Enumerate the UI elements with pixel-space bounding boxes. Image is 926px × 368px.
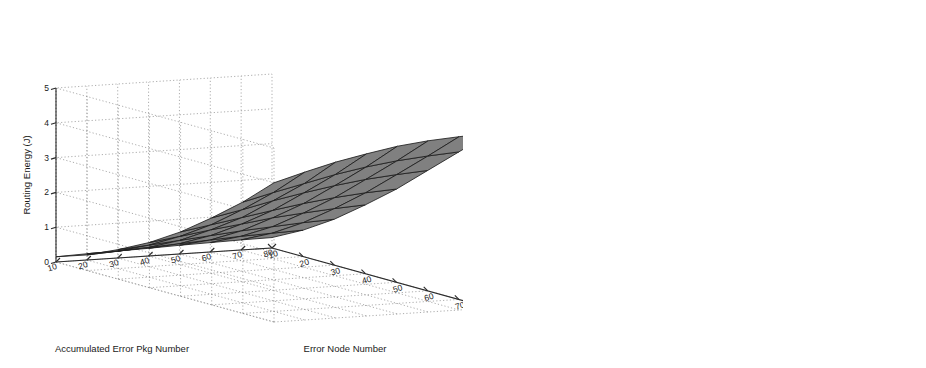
surface-mesh	[56, 133, 463, 256]
z-tick-label: 2	[44, 187, 49, 197]
z-tick-label: 4	[44, 118, 49, 128]
y-tick-label: 60	[200, 251, 212, 263]
surface-plot-left: 01234510203040506070801020304050607080Ro…	[0, 0, 463, 368]
z-tick-label: 1	[44, 222, 49, 232]
surface-plot-right: 1020304050601020304050607080102030405060…	[463, 0, 926, 368]
chart-panel-left: 01234510203040506070801020304050607080Ro…	[0, 0, 463, 368]
grid-line-floor-x	[274, 308, 463, 322]
x-axis-title: Error Node Number	[304, 343, 387, 354]
z-tick-label: 3	[44, 153, 49, 163]
z-tick-mark	[51, 158, 56, 160]
figure-container: 01234510203040506070801020304050607080Ro…	[0, 0, 926, 368]
z-tick-mark	[51, 88, 56, 90]
chart-panel-right: 1020304050601020304050607080102030405060…	[463, 0, 926, 368]
z-tick-mark	[51, 192, 56, 194]
y-tick-label: 50	[170, 253, 182, 265]
y-tick-label: 30	[108, 257, 120, 269]
z-axis-title: Routing Energy (J)	[21, 135, 32, 214]
z-tick-label: 5	[44, 83, 49, 93]
surface-layer	[56, 133, 463, 256]
y-tick-label: 10	[46, 261, 58, 273]
y-axis-title: Accumulated Error Pkg Number	[55, 343, 189, 354]
y-tick-label: 70	[231, 249, 243, 261]
z-tick-mark	[51, 123, 56, 125]
x-tick-label: 70	[454, 299, 463, 311]
z-tick-mark	[51, 227, 56, 229]
